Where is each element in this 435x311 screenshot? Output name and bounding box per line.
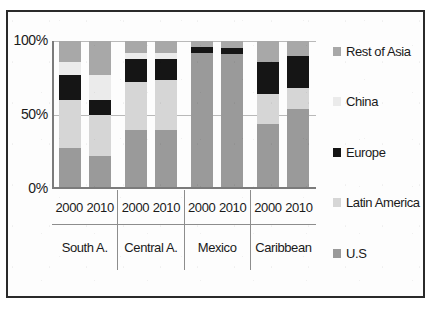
region-cell: Mexico (185, 225, 251, 270)
legend-label: Latin America (346, 195, 420, 210)
region-cell: Caribbean (251, 225, 316, 270)
x-tick-year: 2010 (153, 200, 180, 215)
y-tick-50: 50% (21, 106, 48, 122)
legend-swatch-icon (333, 97, 341, 106)
x-tick-year: 2000 (254, 200, 281, 215)
legend-label: Rest of Asia (346, 44, 411, 59)
legend-item[interactable]: China (333, 93, 433, 111)
legend-label: China (346, 94, 378, 109)
x-group-label: Caribbean (255, 240, 311, 255)
x-tick-year: 2000 (56, 200, 83, 215)
legend-item[interactable]: Latin America (333, 194, 433, 212)
y-tick-100: 100% (13, 32, 48, 48)
chart-figure: 100% 50% 0% 2000201020002010200020102000… (6, 10, 425, 298)
x-tick-year: 2010 (86, 200, 113, 215)
x-tick-year: 2010 (285, 200, 312, 215)
legend-label: U.S (346, 246, 366, 261)
y-axis: 100% 50% 0% (8, 41, 48, 189)
legend-swatch-icon (333, 198, 341, 207)
plot-area (52, 41, 316, 189)
legend-item[interactable]: Rest of Asia (333, 42, 433, 60)
chart-legend: Rest of AsiaChinaEuropeLatin AmericaU.S (333, 42, 433, 262)
y-tick-0: 0% (28, 180, 48, 196)
legend-item[interactable]: Europe (333, 143, 433, 161)
x-axis-region-labels: South A.Central A.MexicoCaribbean (52, 224, 316, 270)
year-group-cell: 20002010 (52, 190, 118, 224)
legend-swatch-icon (333, 249, 341, 258)
plot-frame (52, 41, 316, 189)
legend-swatch-icon (333, 47, 341, 56)
x-tick-year: 2000 (122, 200, 149, 215)
region-cell: South A. (52, 225, 118, 270)
legend-item[interactable]: U.S (333, 244, 433, 262)
x-tick-year: 2000 (188, 200, 215, 215)
legend-label: Europe (346, 145, 386, 160)
year-group-cell: 20002010 (118, 190, 184, 224)
x-group-label: Central A. (124, 240, 177, 255)
region-cell: Central A. (118, 225, 184, 270)
legend-swatch-icon (333, 148, 341, 157)
x-group-label: South A. (62, 240, 108, 255)
x-tick-year: 2010 (219, 200, 246, 215)
x-group-label: Mexico (198, 240, 237, 255)
year-group-cell: 20002010 (251, 190, 316, 224)
x-axis-year-labels: 20002010200020102000201020002010 (52, 190, 316, 224)
year-group-cell: 20002010 (185, 190, 251, 224)
